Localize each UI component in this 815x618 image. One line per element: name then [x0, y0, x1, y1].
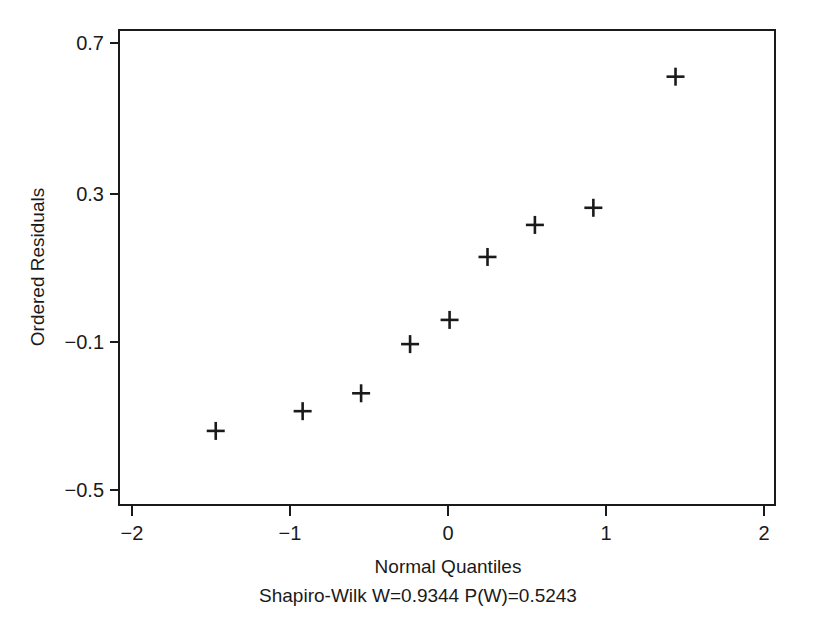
data-point-marker	[441, 311, 459, 329]
x-tick-label-1: −1	[279, 522, 302, 544]
x-tick-label-3: 1	[600, 522, 611, 544]
data-point-marker	[584, 199, 602, 217]
data-point-marker	[401, 335, 419, 353]
data-point-marker	[294, 402, 312, 420]
y-axis-title: Ordered Residuals	[27, 188, 48, 346]
y-tick-label-2: −0.1	[65, 331, 104, 353]
data-point-marker	[352, 384, 370, 402]
data-point-marker	[526, 216, 544, 234]
x-tick-label-2: 0	[442, 522, 453, 544]
y-tick-label-1: 0.3	[76, 183, 104, 205]
y-axis-tick-labels: 0.7 0.3 −0.1 −0.5	[65, 32, 104, 501]
x-axis-tick-labels: −2 −1 0 1 2	[121, 522, 770, 544]
y-tick-label-3: −0.5	[65, 479, 104, 501]
x-tick-label-4: 2	[758, 522, 769, 544]
x-tick-label-0: −2	[121, 522, 144, 544]
y-axis-ticks	[110, 43, 119, 490]
qq-plot-figure: 0.7 0.3 −0.1 −0.5 −2 −1 0 1 2 Normal Qua…	[0, 0, 815, 618]
shapiro-wilk-caption: Shapiro-Wilk W=0.9344 P(W)=0.5243	[259, 585, 577, 606]
chart-canvas: 0.7 0.3 −0.1 −0.5 −2 −1 0 1 2 Normal Qua…	[0, 0, 815, 618]
x-axis-title: Normal Quantiles	[375, 556, 522, 577]
data-point-marker	[207, 422, 225, 440]
data-point-series	[207, 68, 685, 440]
data-point-marker	[667, 68, 685, 86]
y-tick-label-0: 0.7	[76, 32, 104, 54]
plot-frame	[119, 30, 775, 505]
x-axis-ticks	[132, 505, 764, 516]
data-point-marker	[479, 248, 497, 266]
